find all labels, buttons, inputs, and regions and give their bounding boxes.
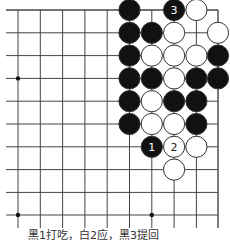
- white-stone: [186, 136, 207, 157]
- black-stone: [119, 68, 140, 89]
- white-stone: [207, 22, 228, 43]
- black-stone: [119, 22, 140, 43]
- diagram-caption: 黑1打吃，白2应，黑3提回: [0, 226, 230, 242]
- white-stone: 2: [164, 136, 185, 157]
- black-stone: [186, 113, 207, 134]
- grid-lines: [6, 10, 218, 228]
- white-stone: [164, 45, 185, 66]
- black-stone: [186, 91, 207, 112]
- white-stone: [186, 0, 207, 21]
- star-point-icon: [16, 213, 20, 217]
- black-stone: 3: [164, 0, 185, 21]
- star-point-icon: [150, 213, 154, 217]
- go-board: 312: [0, 0, 230, 228]
- black-stone: [207, 68, 228, 89]
- black-stone: [141, 22, 162, 43]
- move-number-label: 3: [171, 4, 178, 17]
- white-stone: [164, 113, 185, 134]
- white-stone: [186, 45, 207, 66]
- white-stone: [164, 22, 185, 43]
- white-stone: [141, 113, 162, 134]
- black-stone: [119, 113, 140, 134]
- white-stone: [141, 91, 162, 112]
- white-stone: [164, 159, 185, 180]
- black-stone: [141, 68, 162, 89]
- white-stone: [141, 45, 162, 66]
- black-stone: [207, 45, 228, 66]
- star-point-icon: [16, 76, 20, 80]
- black-stone: [119, 0, 140, 21]
- white-stone: [164, 68, 185, 89]
- black-stone: 1: [141, 136, 162, 157]
- move-number-label: 1: [148, 141, 155, 154]
- black-stone: [186, 68, 207, 89]
- black-stone: [119, 45, 140, 66]
- black-stone: [119, 91, 140, 112]
- black-stone: [164, 91, 185, 112]
- move-number-label: 2: [171, 141, 178, 154]
